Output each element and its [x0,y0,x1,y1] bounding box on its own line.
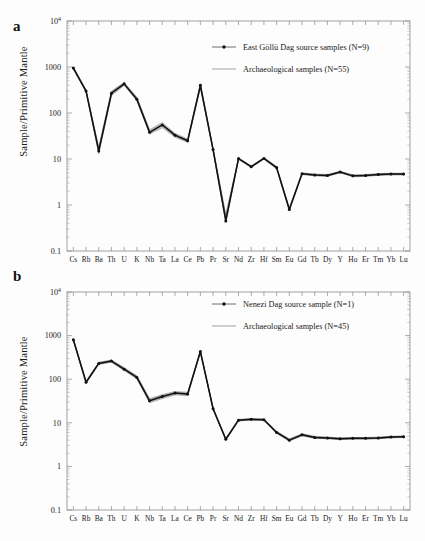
panel-a-plot: 10410001001010.1CsRbBaThUKNbTaLaCePbPrSr… [0,0,425,270]
svg-text:Ta: Ta [159,255,167,264]
svg-text:Cs: Cs [69,255,77,264]
svg-text:Y: Y [337,514,343,523]
svg-text:La: La [171,255,180,264]
svg-text:Cs: Cs [69,514,77,523]
archaeological-envelope-line [73,340,403,440]
data-point-marker [364,437,367,440]
data-point-marker [250,165,253,168]
data-point-marker [212,407,215,410]
data-point-marker [288,439,291,442]
svg-text:Dy: Dy [323,255,332,264]
data-point-marker [72,338,75,341]
svg-text:Y: Y [337,255,343,264]
svg-text:Eu: Eu [285,255,294,264]
svg-text:Pr: Pr [210,514,217,523]
data-point-marker [275,166,278,169]
svg-text:Er: Er [362,255,370,264]
data-point-marker [402,435,405,438]
svg-text:Yb: Yb [386,514,395,523]
svg-text:Nb: Nb [145,255,154,264]
svg-text:0.1: 0.1 [51,506,61,515]
legend-entry-label: Archaeological samples (N=55) [243,65,349,74]
data-point-marker [237,419,240,422]
svg-text:104: 104 [50,16,61,26]
data-point-marker [173,134,176,137]
svg-text:Pb: Pb [196,514,204,523]
svg-text:104: 104 [50,287,61,297]
data-point-marker [135,98,138,101]
legend-entry-label: East Göllü Dag source samples (N=9) [243,43,369,52]
svg-text:U: U [121,514,127,523]
data-point-marker [351,437,354,440]
svg-text:K: K [134,514,140,523]
svg-text:Nb: Nb [145,514,154,523]
data-point-marker [301,433,304,436]
svg-text:1: 1 [57,201,61,210]
svg-text:Sm: Sm [272,255,282,264]
data-point-marker [301,172,304,175]
archaeological-envelope-line [73,69,403,222]
data-point-marker [339,437,342,440]
data-point-marker [85,90,88,93]
svg-text:Tm: Tm [373,255,384,264]
data-point-marker [351,174,354,177]
svg-text:Ce: Ce [184,255,193,264]
svg-text:1000: 1000 [45,63,61,72]
data-point-marker [97,362,100,365]
data-point-marker [148,131,151,134]
data-point-marker [224,438,227,441]
data-point-marker [148,399,151,402]
svg-text:Lu: Lu [400,514,409,523]
archaeological-envelope-line [73,68,403,218]
data-point-marker [161,123,164,126]
data-point-marker [237,157,240,160]
data-point-marker [377,173,380,176]
svg-text:U: U [121,255,127,264]
data-point-marker [224,219,227,222]
svg-text:Ho: Ho [348,255,357,264]
svg-text:Ba: Ba [95,514,104,523]
data-point-marker [161,395,164,398]
svg-text:Nd: Nd [234,514,243,523]
data-point-marker [72,67,75,70]
legend-entry-label: Nenezi Dag source sample (N=1) [243,300,354,309]
data-point-marker [186,392,189,395]
archaeological-envelope-line [73,67,403,215]
legend-marker-icon [222,302,225,305]
data-point-marker [123,368,126,371]
archaeological-envelope-line [73,69,403,221]
figure-container: a Sample/Primitive Mantle 10410001001010… [0,0,425,541]
data-point-marker [326,436,329,439]
archaeological-envelope-line [73,339,403,439]
source-sample-line [73,68,403,221]
data-point-marker [377,436,380,439]
source-sample-line [73,340,403,440]
svg-text:1: 1 [57,462,61,471]
svg-text:Th: Th [107,514,116,523]
svg-text:Tb: Tb [311,255,320,264]
svg-text:Sm: Sm [272,514,282,523]
panel-b-plot: 10410001001010.1CsRbBaThUKNbTaLaCePbPrSr… [0,268,425,541]
svg-text:Gd: Gd [297,255,306,264]
svg-text:Zr: Zr [248,514,256,523]
svg-text:Pr: Pr [210,255,217,264]
svg-text:100: 100 [49,375,61,384]
svg-text:Sr: Sr [223,514,230,523]
svg-text:10: 10 [53,155,61,164]
svg-text:Lu: Lu [400,255,409,264]
data-point-marker [262,418,265,421]
svg-text:Tb: Tb [311,514,320,523]
legend-entry-label: Archaeological samples (N=45) [243,322,349,331]
data-point-marker [85,381,88,384]
svg-text:Ho: Ho [348,514,357,523]
data-point-marker [135,376,138,379]
data-point-marker [110,92,113,95]
svg-text:Yb: Yb [386,255,395,264]
svg-text:1000: 1000 [45,331,61,340]
svg-text:Gd: Gd [297,514,306,523]
data-point-marker [313,173,316,176]
data-point-marker [123,82,126,85]
data-point-marker [186,139,189,142]
archaeological-envelope-line [73,341,403,442]
legend-marker-icon [222,45,225,48]
